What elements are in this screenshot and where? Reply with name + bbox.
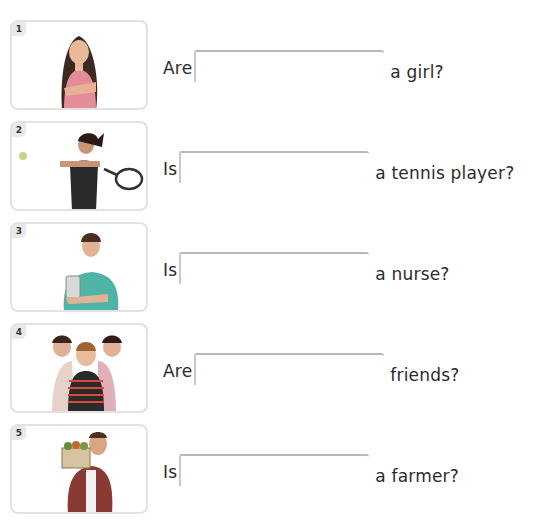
sentence-suffix: a farmer? (375, 466, 459, 486)
picture-card: 4 (10, 323, 148, 413)
nurse-photo (12, 224, 146, 310)
item-number: 3 (12, 224, 26, 238)
sentence-prefix: Is (163, 159, 177, 179)
farmer-photo (12, 426, 146, 512)
sentence-suffix: a nurse? (375, 264, 449, 284)
sentence-prefix: Are (163, 361, 192, 381)
sentence: Is a farmer? (163, 454, 459, 490)
sentence-prefix: Is (163, 462, 177, 482)
exercise-item-4: 4 Are friends? (0, 323, 534, 419)
picture-card: 3 (10, 222, 148, 312)
picture-card: 1 (10, 20, 148, 110)
sentence: Are friends? (163, 353, 460, 389)
exercise-item-3: 3 Is a nurse? (0, 222, 534, 318)
sentence: Is a nurse? (163, 252, 450, 288)
item-number: 4 (12, 325, 26, 339)
friends-photo (12, 325, 146, 411)
answer-input[interactable] (179, 252, 369, 284)
sentence-suffix: friends? (390, 365, 459, 385)
answer-input[interactable] (194, 353, 384, 385)
sentence: Are a girl? (163, 50, 444, 86)
exercise-item-2: 2 Is a tennis player? (0, 121, 534, 217)
answer-input[interactable] (179, 151, 369, 183)
sentence-prefix: Are (163, 58, 192, 78)
exercise-item-5: 5 Is a farmer? (0, 424, 534, 520)
item-number: 2 (12, 123, 26, 137)
answer-input[interactable] (179, 454, 369, 486)
picture-card: 2 (10, 121, 148, 211)
item-number: 5 (12, 426, 26, 440)
sentence-suffix: a tennis player? (375, 163, 514, 183)
sentence-suffix: a girl? (390, 62, 443, 82)
picture-card: 5 (10, 424, 148, 514)
sentence-prefix: Is (163, 260, 177, 280)
sentence: Is a tennis player? (163, 151, 514, 187)
answer-input[interactable] (194, 50, 384, 82)
tennis-player-photo (12, 123, 146, 209)
item-number: 1 (12, 22, 26, 36)
exercise-item-1: 1 Are a girl? (0, 20, 534, 116)
girl-photo (12, 22, 146, 108)
